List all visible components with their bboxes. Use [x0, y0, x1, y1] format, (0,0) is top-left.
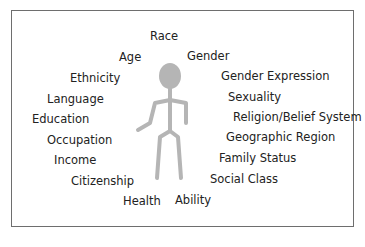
- label-gender: Gender: [187, 51, 229, 63]
- label-education: Education: [32, 114, 89, 126]
- label-sexuality: Sexuality: [228, 92, 281, 104]
- label-religion: Religion/Belief System: [233, 112, 362, 124]
- label-income: Income: [54, 155, 96, 167]
- label-geographic-region: Geographic Region: [226, 132, 335, 144]
- label-ethnicity: Ethnicity: [70, 73, 120, 85]
- label-ability: Ability: [175, 195, 211, 207]
- label-age: Age: [119, 52, 141, 64]
- label-occupation: Occupation: [47, 135, 112, 147]
- label-gender-expression: Gender Expression: [221, 71, 329, 83]
- label-health: Health: [123, 196, 161, 208]
- label-race: Race: [150, 31, 178, 43]
- label-language: Language: [47, 94, 104, 106]
- label-family-status: Family Status: [219, 153, 296, 165]
- label-citizenship: Citizenship: [71, 176, 134, 188]
- label-social-class: Social Class: [210, 174, 278, 186]
